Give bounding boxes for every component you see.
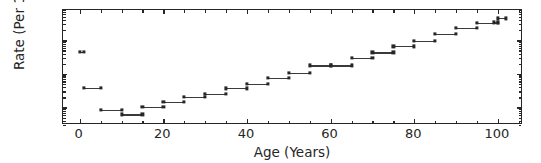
- x-minor-tick-mark: [122, 121, 123, 124]
- data-point-marker: [308, 64, 311, 67]
- data-point-marker: [454, 27, 457, 30]
- y-minor-tick-mark: [519, 14, 522, 15]
- data-point-marker: [496, 21, 499, 24]
- x-tick-label: 60: [321, 127, 338, 141]
- y-minor-tick-mark: [519, 20, 522, 21]
- x-minor-tick-mark: [352, 10, 353, 13]
- y-minor-tick-mark: [63, 81, 66, 82]
- y-minor-tick-mark: [519, 109, 522, 110]
- y-minor-tick-mark: [519, 42, 522, 43]
- data-point-marker: [287, 76, 290, 79]
- data-segment: [247, 84, 268, 85]
- x-tick-mark: [247, 119, 248, 123]
- y-minor-tick-mark: [63, 125, 66, 126]
- x-minor-tick-mark: [268, 121, 269, 124]
- data-segment: [101, 110, 122, 111]
- data-point-marker: [287, 71, 290, 74]
- y-minor-tick-mark: [63, 115, 66, 116]
- y-minor-tick-mark: [63, 91, 66, 92]
- x-minor-tick-mark: [372, 10, 373, 13]
- y-minor-tick-mark: [63, 84, 66, 85]
- data-segment: [289, 73, 310, 74]
- data-point-marker: [454, 32, 457, 35]
- y-minor-tick-mark: [63, 30, 66, 31]
- x-minor-tick-mark: [205, 121, 206, 124]
- x-minor-tick-mark: [268, 10, 269, 13]
- x-tick-mark: [331, 119, 332, 123]
- data-segment: [142, 107, 163, 108]
- x-tick-label: 80: [405, 127, 422, 141]
- y-minor-tick-mark: [519, 125, 522, 126]
- y-minor-tick-mark: [63, 48, 66, 49]
- data-series-layer: [63, 10, 521, 123]
- y-minor-tick-mark: [63, 64, 66, 65]
- y-minor-tick-mark: [63, 97, 66, 98]
- x-minor-tick-mark: [101, 10, 102, 13]
- x-tick-mark-top: [80, 10, 81, 14]
- y-minor-tick-mark: [519, 121, 522, 122]
- data-point-marker: [350, 64, 353, 67]
- x-minor-tick-mark: [435, 121, 436, 124]
- data-point-marker: [413, 39, 416, 42]
- figure-canvas: Rate (Per 1) 02040608010010-110-210-3 Ag…: [0, 0, 541, 163]
- plot-area: [62, 9, 522, 124]
- data-point-marker: [204, 95, 207, 98]
- y-minor-tick-mark: [519, 118, 522, 119]
- y-minor-tick-mark: [519, 81, 522, 82]
- data-point-marker: [308, 71, 311, 74]
- y-minor-tick-mark: [519, 115, 522, 116]
- data-point-marker: [350, 57, 353, 60]
- x-tick-mark: [163, 119, 164, 123]
- y-minor-tick-mark: [519, 48, 522, 49]
- data-point-marker: [434, 32, 437, 35]
- data-point-marker: [266, 82, 269, 85]
- data-point-marker: [245, 82, 248, 85]
- y-minor-tick-mark: [63, 20, 66, 21]
- x-tick-mark: [80, 119, 81, 123]
- x-minor-tick-mark: [477, 121, 478, 124]
- y-minor-tick-mark: [63, 77, 66, 78]
- data-point-marker: [496, 17, 499, 20]
- data-point-marker: [82, 51, 85, 54]
- y-minor-tick-mark: [63, 44, 66, 45]
- x-tick-mark-top: [247, 10, 248, 14]
- data-point-marker: [162, 100, 165, 103]
- x-tick-mark: [414, 119, 415, 123]
- x-tick-mark-top: [163, 10, 164, 14]
- y-minor-tick-mark: [519, 91, 522, 92]
- y-minor-tick-mark: [63, 118, 66, 119]
- x-tick-mark-top: [331, 10, 332, 14]
- data-point-marker: [120, 108, 123, 111]
- y-minor-tick-mark: [519, 44, 522, 45]
- x-minor-tick-mark: [142, 10, 143, 13]
- x-tick-label: 40: [238, 127, 255, 141]
- data-point-marker: [99, 108, 102, 111]
- y-minor-tick-mark: [63, 14, 66, 15]
- x-tick-label: 20: [154, 127, 171, 141]
- x-minor-tick-mark: [456, 10, 457, 13]
- x-minor-tick-mark: [184, 121, 185, 124]
- x-minor-tick-mark: [226, 10, 227, 13]
- data-point-marker: [141, 105, 144, 108]
- data-segment: [331, 65, 352, 66]
- data-point-marker: [392, 45, 395, 48]
- data-point-marker: [492, 21, 495, 24]
- data-point-marker: [162, 105, 165, 108]
- y-minor-tick-mark: [519, 17, 522, 18]
- y-minor-tick-mark: [63, 24, 66, 25]
- x-minor-tick-mark: [456, 121, 457, 124]
- y-minor-tick-mark: [519, 24, 522, 25]
- y-minor-tick-mark: [63, 87, 66, 88]
- y-minor-tick-mark: [519, 10, 522, 11]
- y-minor-tick-mark: [519, 97, 522, 98]
- data-point-marker: [204, 92, 207, 95]
- y-minor-tick-mark: [519, 87, 522, 88]
- x-minor-tick-mark: [352, 121, 353, 124]
- data-segment: [205, 94, 226, 95]
- data-point-marker: [392, 51, 395, 54]
- x-minor-tick-mark: [393, 10, 394, 13]
- y-minor-tick-mark: [63, 17, 66, 18]
- y-minor-tick-mark: [519, 113, 522, 114]
- y-minor-tick-mark: [519, 84, 522, 85]
- data-segment: [226, 88, 247, 89]
